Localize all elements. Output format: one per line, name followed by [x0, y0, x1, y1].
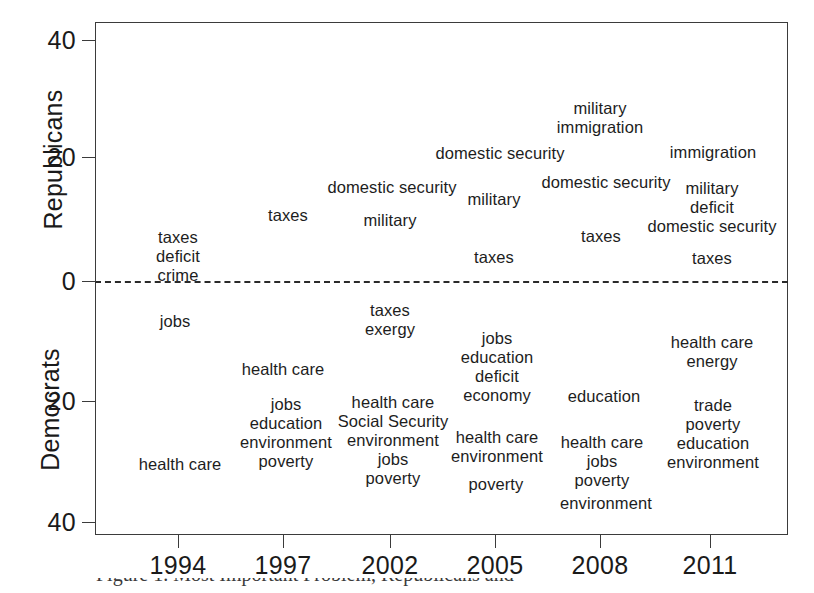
x-axis-tick — [495, 535, 496, 548]
word-cluster-rep-2008-taxes: taxes — [581, 227, 621, 246]
issue-label: energy — [671, 352, 754, 371]
issue-label: deficit — [647, 198, 776, 217]
word-cluster-dem-2008-environment: environment — [560, 494, 652, 513]
issue-label: taxes — [268, 206, 308, 225]
issue-label: domestic security — [435, 144, 564, 163]
word-cluster-rep-2002-security: domestic security — [327, 178, 456, 197]
word-cluster-rep-2011-stack: militarydeficitdomestic security — [647, 179, 776, 236]
issue-label: military — [467, 190, 520, 209]
x-axis-tick — [390, 535, 391, 548]
issue-label: crime — [156, 266, 200, 285]
issue-label: health care — [242, 360, 325, 379]
issue-label: jobs — [561, 452, 644, 471]
x-axis-tick — [283, 535, 284, 548]
y-axis-tick-label: 0 — [0, 267, 76, 296]
issue-label: poverty — [338, 469, 449, 488]
issue-label: taxes — [156, 228, 200, 247]
issue-label: immigration — [670, 143, 756, 162]
y-axis-tick — [82, 281, 96, 282]
issue-label: education — [568, 387, 640, 406]
issue-label: taxes — [474, 248, 514, 267]
word-cluster-dem-2005-poverty: poverty — [469, 475, 524, 494]
x-axis-tick — [710, 535, 711, 548]
issue-label: taxes — [692, 249, 732, 268]
word-cluster-dem-2002-stack: health careSocial Securityenvironmentjob… — [338, 393, 449, 488]
word-cluster-rep-1997: taxes — [268, 206, 308, 225]
issue-label: domestic security — [647, 217, 776, 236]
issue-label: jobs — [240, 395, 332, 414]
issue-label: immigration — [557, 118, 643, 137]
issue-label: health care — [671, 333, 754, 352]
issue-label: education — [461, 348, 533, 367]
x-axis-tick-label: 2011 — [650, 551, 770, 580]
issue-label: jobs — [461, 329, 533, 348]
issue-label: jobs — [338, 450, 449, 469]
issue-label: poverty — [667, 415, 759, 434]
word-cluster-dem-2002-top: taxesexergy — [365, 301, 415, 339]
y-axis-tick-label: 40 — [0, 26, 76, 55]
issue-label: deficit — [461, 367, 533, 386]
issue-label: trade — [667, 396, 759, 415]
y-axis-tick-label: 20 — [0, 143, 76, 172]
y-axis-tick — [82, 522, 96, 523]
issue-label: health care — [561, 433, 644, 452]
issue-label: education — [240, 414, 332, 433]
chart-figure: Republicans Democrats 402002040 19941997… — [0, 0, 814, 593]
word-cluster-rep-2011-taxes: taxes — [692, 249, 732, 268]
issue-label: health care — [451, 428, 543, 447]
issue-label: poverty — [240, 452, 332, 471]
y-axis-tick — [82, 157, 96, 158]
x-axis-tick — [178, 535, 179, 548]
issue-label: jobs — [160, 312, 191, 331]
word-cluster-dem-2011-stack: tradepovertyeducationenvironment — [667, 396, 759, 472]
word-cluster-dem-1994-health: health care — [139, 455, 222, 474]
issue-label: poverty — [561, 471, 644, 490]
issue-label: military — [647, 179, 776, 198]
issue-label: taxes — [365, 301, 415, 320]
word-cluster-dem-2008-stack: health carejobspoverty — [561, 433, 644, 490]
caption-sliver-text: Figure 1. Most Important Problem, Republ… — [96, 578, 516, 586]
word-cluster-dem-1994-jobs: jobs — [160, 312, 191, 331]
word-cluster-dem-2005-stack-b: health careenvironment — [451, 428, 543, 466]
word-cluster-dem-1997-health: health care — [242, 360, 325, 379]
issue-label: environment — [240, 433, 332, 452]
x-axis-tick — [600, 535, 601, 548]
word-cluster-dem-2005-stack-a: jobseducationdeficiteconomy — [461, 329, 533, 405]
word-cluster-rep-2005-security: domestic security — [435, 144, 564, 163]
issue-label: environment — [338, 431, 449, 450]
word-cluster-rep-2002-military: military — [363, 211, 416, 230]
issue-label: environment — [560, 494, 652, 513]
word-cluster-dem-2011-top: health careenergy — [671, 333, 754, 371]
issue-label: environment — [667, 453, 759, 472]
issue-label: health care — [338, 393, 449, 412]
word-cluster-rep-1994: taxesdeficitcrime — [156, 228, 200, 285]
y-axis-tick — [82, 401, 96, 402]
x-axis-tick-label: 2005 — [435, 551, 555, 580]
issue-label: environment — [451, 447, 543, 466]
word-cluster-rep-2005-taxes: taxes — [474, 248, 514, 267]
issue-label: poverty — [469, 475, 524, 494]
y-axis-tick-label: 40 — [0, 508, 76, 537]
caption-sliver: Figure 1. Most Important Problem, Republ… — [96, 578, 516, 593]
issue-label: taxes — [581, 227, 621, 246]
word-cluster-dem-1997-stack: jobseducationenvironmentpoverty — [240, 395, 332, 471]
y-axis-tick-label: 20 — [0, 387, 76, 416]
issue-label: Social Security — [338, 412, 449, 431]
word-cluster-rep-2005-military: military — [467, 190, 520, 209]
word-cluster-dem-2008-education: education — [568, 387, 640, 406]
issue-label: military — [363, 211, 416, 230]
issue-label: health care — [139, 455, 222, 474]
x-axis-tick-label: 1994 — [118, 551, 238, 580]
word-cluster-rep-2011-immigration: immigration — [670, 143, 756, 162]
issue-label: education — [667, 434, 759, 453]
x-axis-tick-label: 2002 — [330, 551, 450, 580]
y-axis-tick — [82, 40, 96, 41]
issue-label: deficit — [156, 247, 200, 266]
word-cluster-rep-2008-top: militaryimmigration — [557, 99, 643, 137]
issue-label: military — [557, 99, 643, 118]
x-axis-tick-label: 2008 — [540, 551, 660, 580]
issue-label: economy — [461, 386, 533, 405]
x-axis-tick-label: 1997 — [223, 551, 343, 580]
issue-label: domestic security — [327, 178, 456, 197]
issue-label: exergy — [365, 320, 415, 339]
